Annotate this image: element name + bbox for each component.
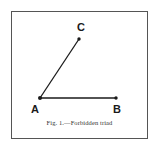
- label-a: A: [31, 104, 39, 115]
- figure-caption: Fig. 1.—Forbidden triad: [11, 119, 148, 126]
- label-c: C: [77, 22, 85, 33]
- point-a: [38, 96, 42, 100]
- label-b: B: [113, 104, 121, 115]
- point-c: [77, 37, 80, 40]
- edge-a-c: [40, 39, 79, 98]
- point-b: [114, 96, 117, 99]
